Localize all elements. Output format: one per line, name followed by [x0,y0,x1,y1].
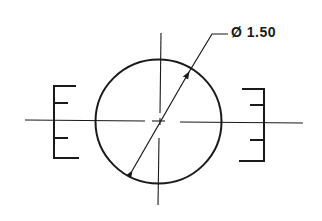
leader-line [189,34,228,72]
right-scale-bracket [239,89,264,161]
diameter-dimension-label: Ø 1.50 [231,24,276,40]
horizontal-centerline [25,120,303,123]
left-scale-bracket [54,86,79,158]
drawing-canvas: Ø 1.50 [0,0,322,221]
